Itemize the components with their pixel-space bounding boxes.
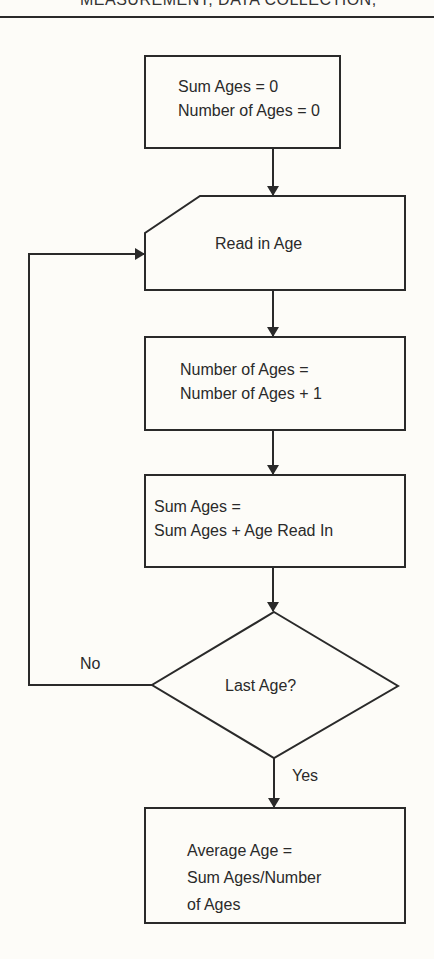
sum-text: Sum Ages = Sum Ages + Age Read In: [154, 495, 333, 543]
sum-line-1: Sum Ages =: [154, 495, 333, 519]
init-text: Sum Ages = 0 Number of Ages = 0: [178, 75, 320, 123]
average-line-2: Sum Ages/Number: [187, 864, 321, 891]
count-line-1: Number of Ages =: [180, 358, 322, 382]
flowchart-canvas: [0, 0, 434, 959]
init-line-1: Sum Ages = 0: [178, 75, 320, 99]
average-line-3: of Ages: [187, 891, 321, 918]
decision-line-1: Last Age?: [225, 674, 296, 698]
count-text: Number of Ages = Number of Ages + 1: [180, 358, 322, 406]
decision-text: Last Age?: [225, 674, 296, 698]
count-line-2: Number of Ages + 1: [180, 382, 322, 406]
read-line-1: Read in Age: [215, 232, 302, 256]
sum-line-2: Sum Ages + Age Read In: [154, 519, 333, 543]
read-text: Read in Age: [215, 232, 302, 256]
edge-label-no: No: [80, 655, 100, 673]
average-line-1: Average Age =: [187, 837, 321, 864]
init-line-2: Number of Ages = 0: [178, 99, 320, 123]
edge-label-yes: Yes: [292, 767, 318, 785]
edge-decision-read-no: [29, 254, 152, 685]
average-text: Average Age = Sum Ages/Number of Ages: [187, 837, 321, 918]
